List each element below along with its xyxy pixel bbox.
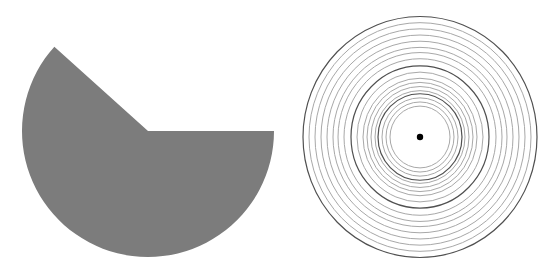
concentric-circles-figure (280, 0, 560, 278)
sector-shape (0, 0, 280, 278)
sector-figure (0, 0, 280, 278)
sector-path (22, 47, 274, 257)
concentric-rings (280, 0, 560, 278)
center-dot (417, 134, 423, 140)
